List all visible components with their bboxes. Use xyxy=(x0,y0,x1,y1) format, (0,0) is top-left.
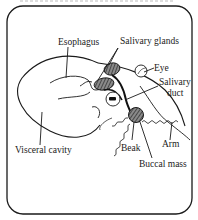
label-salivary-glands: Salivary glands xyxy=(120,36,179,46)
label-arm: Arm xyxy=(162,139,180,149)
arm-left xyxy=(112,118,128,127)
eye-lower xyxy=(106,92,120,106)
label-visceral-cavity: Visceral cavity xyxy=(15,145,72,155)
arm-right xyxy=(142,121,178,124)
label-esophagus: Esophagus xyxy=(58,37,99,47)
anatomy-diagram: Esophagus Salivary glands Eye Salivary d… xyxy=(0,0,198,220)
label-salivary-duct-line2: duct xyxy=(167,88,184,98)
label-salivary-duct-line1: Salivary xyxy=(159,77,191,87)
eye-upper xyxy=(135,65,147,77)
label-eye: Eye xyxy=(154,63,169,73)
visceral-sac-outline xyxy=(18,56,100,137)
buccal-mass xyxy=(129,108,144,123)
label-beak: Beak xyxy=(121,143,141,153)
head-curve xyxy=(92,107,100,118)
label-buccal-mass: Buccal mass xyxy=(139,159,187,169)
esophagus-lower xyxy=(58,92,90,99)
